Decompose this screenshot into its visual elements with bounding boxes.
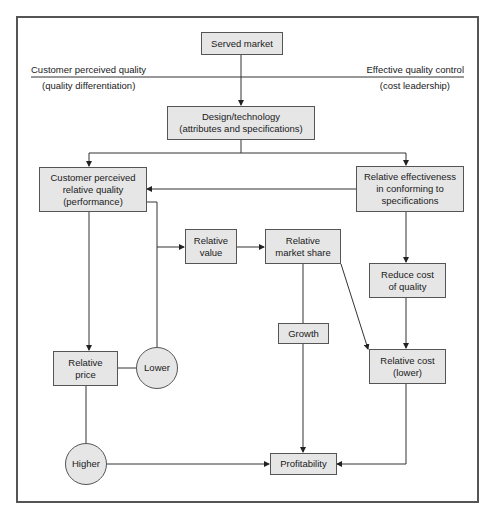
node-relative-market-share: Relative market share xyxy=(265,229,341,264)
node-relative-value: Relative value xyxy=(185,229,237,264)
node-relative-cost: Relative cost (lower) xyxy=(369,349,446,384)
node-profitability: Profitability xyxy=(270,453,337,475)
node-higher: Higher xyxy=(65,443,107,485)
node-relative-price: Relative price xyxy=(53,351,118,386)
node-design-technology: Design/technology (attributes and specif… xyxy=(167,106,315,140)
axis-label-effective-quality-control: Effective quality control xyxy=(366,64,464,76)
node-customer-perceived-quality: Customer perceived relative quality (per… xyxy=(39,167,147,212)
axis-label-quality-differentiation: (quality differentiation) xyxy=(42,80,135,92)
node-lower: Lower xyxy=(136,347,178,389)
node-growth: Growth xyxy=(278,323,329,344)
node-reduce-cost-of-quality: Reduce cost of quality xyxy=(369,263,446,298)
node-relative-effectiveness: Relative effectiveness in conforming to … xyxy=(356,166,464,212)
node-served-market: Served market xyxy=(201,32,283,55)
connector-lines xyxy=(0,0,491,514)
axis-label-customer-perceived-quality: Customer perceived quality xyxy=(31,64,146,76)
axis-label-cost-leadership: (cost leadership) xyxy=(380,80,450,92)
